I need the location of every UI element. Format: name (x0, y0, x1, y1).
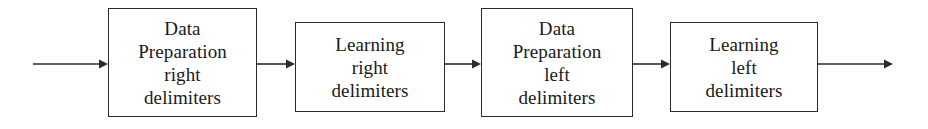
process-box-data-preparation-right-delimiters[interactable]: Data Preparation right delimiters (108, 8, 257, 117)
process-box-learning-left-delimiters[interactable]: Learning left delimiters (670, 22, 818, 112)
box-text-line: delimiters (144, 86, 221, 109)
process-box-data-preparation-left-delimiters[interactable]: Data Preparation left delimiters (481, 8, 633, 117)
box-text-line: Preparation (513, 40, 602, 63)
box-text-line: left (544, 63, 570, 86)
box-text-line: left (731, 56, 757, 79)
box-text-line: Learning (335, 33, 404, 56)
arrow-1-to-2 (257, 58, 295, 70)
box-text-line: delimiters (332, 79, 409, 102)
arrow-output (818, 58, 893, 70)
box-text-line: right (352, 56, 388, 79)
arrow-input (33, 58, 108, 70)
box-text-line: delimiters (706, 79, 783, 102)
box-text-line: delimiters (519, 86, 596, 109)
process-box-learning-right-delimiters[interactable]: Learning right delimiters (295, 22, 445, 112)
flowchart-diagram: Data Preparation right delimiters Learni… (0, 0, 928, 129)
box-text-line: right (164, 63, 200, 86)
box-text-line: Learning (709, 33, 778, 56)
box-text-line: Data (164, 17, 200, 40)
arrow-3-to-4 (633, 58, 670, 70)
box-text-line: Preparation (138, 40, 227, 63)
box-text-line: Data (539, 17, 575, 40)
arrow-2-to-3 (445, 58, 481, 70)
